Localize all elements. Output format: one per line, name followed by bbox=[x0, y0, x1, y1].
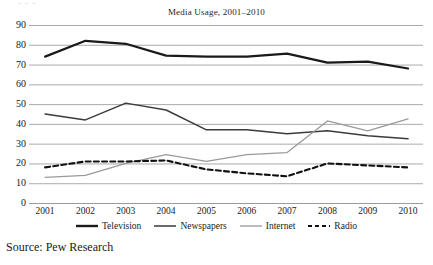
legend-label: Newspapers bbox=[180, 221, 226, 231]
x-axis-tick-label: 2006 bbox=[227, 206, 267, 216]
x-axis-tick-label: 2001 bbox=[25, 206, 65, 216]
y-axis-tick-label: 0 bbox=[2, 198, 26, 208]
chart-figure: - - - Media Usage, 2001–2010 01020304050… bbox=[0, 0, 433, 265]
y-axis-tick-label: 50 bbox=[2, 99, 26, 109]
y-axis-tick-label: 80 bbox=[2, 40, 26, 50]
y-axis-tick-label: 30 bbox=[2, 139, 26, 149]
legend-swatch-icon bbox=[240, 222, 262, 230]
legend-label: Internet bbox=[266, 221, 296, 231]
gridlines bbox=[29, 26, 423, 204]
series-line-radio bbox=[45, 160, 408, 176]
x-axis-tick-label: 2008 bbox=[307, 206, 347, 216]
y-axis-tick-label: 10 bbox=[2, 178, 26, 188]
legend-item-television[interactable]: Television bbox=[76, 221, 141, 231]
source-note: Source: Pew Research bbox=[6, 240, 113, 255]
x-axis-tick-label: 2009 bbox=[348, 206, 388, 216]
legend-label: Radio bbox=[334, 221, 357, 231]
y-axis-tick-label: 70 bbox=[2, 60, 26, 70]
x-axis-tick-label: 2004 bbox=[146, 206, 186, 216]
x-axis-tick-label: 2007 bbox=[267, 206, 307, 216]
series-lines bbox=[45, 41, 408, 177]
legend-swatch-icon bbox=[308, 222, 330, 230]
legend-swatch-icon bbox=[154, 222, 176, 230]
legend-item-internet[interactable]: Internet bbox=[240, 221, 296, 231]
y-axis-tick-label: 90 bbox=[2, 20, 26, 30]
legend-item-newspapers[interactable]: Newspapers bbox=[154, 221, 226, 231]
legend-item-radio[interactable]: Radio bbox=[308, 221, 357, 231]
y-axis-tick-label: 20 bbox=[2, 158, 26, 168]
x-axis-tick-label: 2002 bbox=[65, 206, 105, 216]
chart-legend: TelevisionNewspapersInternetRadio bbox=[0, 221, 433, 231]
x-axis-tick-label: 2010 bbox=[388, 206, 428, 216]
y-axis-tick-label: 60 bbox=[2, 79, 26, 89]
series-line-newspapers bbox=[45, 103, 408, 139]
x-axis-tick-label: 2005 bbox=[186, 206, 226, 216]
x-axis-tick-label: 2003 bbox=[106, 206, 146, 216]
legend-label: Television bbox=[102, 221, 141, 231]
series-line-internet bbox=[45, 119, 408, 177]
legend-swatch-icon bbox=[76, 222, 98, 230]
y-axis-tick-label: 40 bbox=[2, 119, 26, 129]
